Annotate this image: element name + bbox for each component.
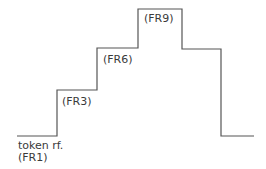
label-fr9: (FR9) — [144, 13, 174, 25]
step-line — [17, 9, 254, 136]
label-fr3: (FR3) — [62, 96, 92, 108]
label-fr1: (FR1) — [18, 152, 48, 164]
label-fr6: (FR6) — [103, 54, 133, 66]
